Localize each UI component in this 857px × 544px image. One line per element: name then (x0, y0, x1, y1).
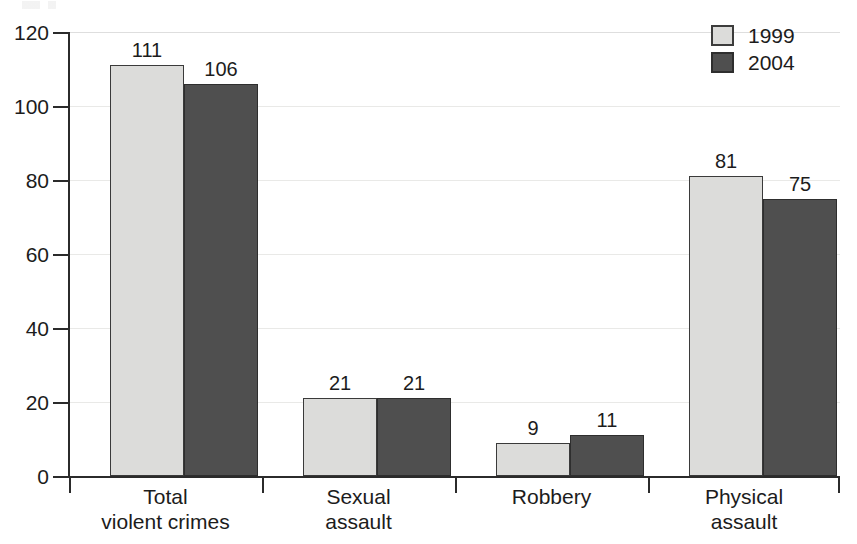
data-label-1999-total-violent-crimes: 111 (110, 40, 184, 60)
bar-1999-total-violent-crimes[interactable] (110, 65, 184, 476)
x-category-line-1: Physical (648, 484, 840, 509)
data-label-1999-robbery: 9 (496, 418, 570, 438)
bar-2004-total-violent-crimes[interactable] (184, 84, 258, 476)
legend-item-2004[interactable]: 2004 (711, 49, 841, 76)
y-axis-line (68, 32, 70, 478)
y-tick-label-60: 60 (5, 244, 49, 265)
bar-1999-sexual-assault[interactable] (303, 398, 377, 476)
bar-chart: 120 100 80 60 40 20 0 111 106 (0, 0, 857, 544)
dark-swatch-icon (711, 52, 734, 73)
y-tick-mark-0 (53, 476, 69, 478)
y-tick-label-0: 0 (5, 466, 49, 487)
plot-area: 111 106 21 21 9 11 81 75 (69, 32, 840, 476)
y-tick-label-80: 80 (5, 170, 49, 191)
bar-1999-physical-assault[interactable] (689, 176, 763, 476)
x-category-line-2: violent crimes (69, 509, 262, 534)
y-tick-label-120: 120 (5, 22, 49, 43)
bar-2004-robbery[interactable] (570, 435, 644, 476)
y-axis-labels: 120 100 80 60 40 20 0 (0, 0, 49, 544)
data-label-1999-sexual-assault: 21 (303, 373, 377, 393)
x-category-line-1: Sexual (262, 484, 455, 509)
y-tick-mark-120 (53, 32, 69, 34)
x-category-label-robbery: Robbery (455, 484, 648, 509)
x-category-label-sexual-assault: Sexual assault (262, 484, 455, 534)
data-label-2004-physical-assault: 75 (763, 174, 837, 194)
y-tick-label-20: 20 (5, 392, 49, 413)
x-category-line-1: Robbery (455, 484, 648, 509)
x-category-label-total-violent-crimes: Total violent crimes (69, 484, 262, 534)
legend-item-1999[interactable]: 1999 (711, 22, 841, 49)
data-label-1999-physical-assault: 81 (689, 151, 763, 171)
x-category-line-2: assault (262, 509, 455, 534)
x-category-line-2: assault (648, 509, 840, 534)
legend: 1999 2004 (703, 16, 849, 83)
y-tick-mark-60 (53, 254, 69, 256)
y-tick-mark-100 (53, 106, 69, 108)
x-category-label-physical-assault: Physical assault (648, 484, 840, 534)
light-swatch-icon (711, 25, 734, 46)
bar-2004-physical-assault[interactable] (763, 199, 837, 477)
bar-1999-robbery[interactable] (496, 443, 570, 476)
data-label-2004-total-violent-crimes: 106 (184, 59, 258, 79)
legend-label-2004: 2004 (748, 52, 795, 73)
y-tick-label-40: 40 (5, 318, 49, 339)
y-tick-label-100: 100 (5, 96, 49, 117)
y-tick-mark-20 (53, 402, 69, 404)
data-label-2004-sexual-assault: 21 (377, 373, 451, 393)
bar-2004-sexual-assault[interactable] (377, 398, 451, 476)
y-tick-mark-40 (53, 328, 69, 330)
y-tick-mark-80 (53, 180, 69, 182)
data-label-2004-robbery: 11 (570, 410, 644, 430)
x-category-line-1: Total (69, 484, 262, 509)
legend-label-1999: 1999 (748, 25, 795, 46)
